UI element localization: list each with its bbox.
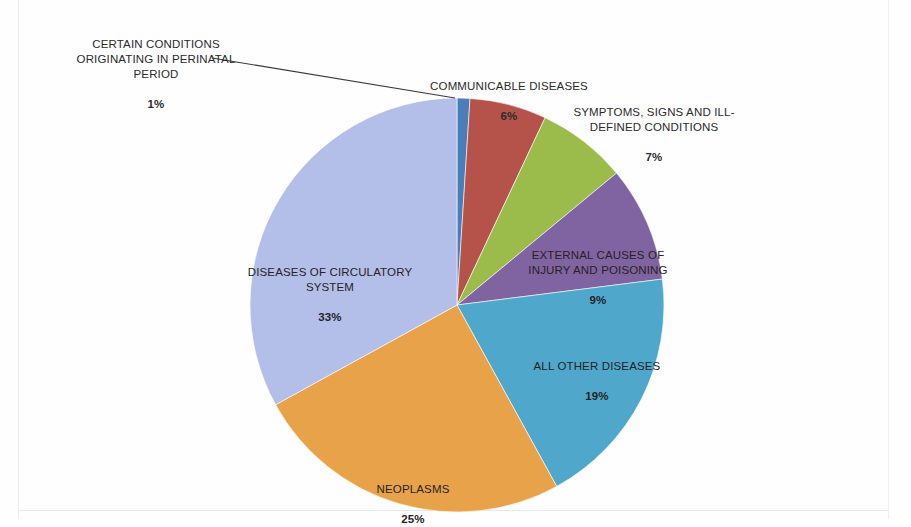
slice-label-symptoms-percent: 7% bbox=[566, 150, 742, 165]
slice-label-perinatal-percent: 1% bbox=[46, 97, 266, 112]
slice-label-all-other-diseases: ALL OTHER DISEASES 19% bbox=[512, 344, 682, 419]
slice-label-external: EXTERNAL CAUSES OF INJURY AND POISONING … bbox=[518, 233, 678, 323]
slice-label-neoplasms-name: NEOPLASMS bbox=[338, 482, 488, 497]
slice-label-symptoms: SYMPTOMS, SIGNS AND ILL- DEFINED CONDITI… bbox=[566, 90, 742, 180]
slice-label-perinatal: CERTAIN CONDITIONS ORIGINATING IN PERINA… bbox=[46, 22, 266, 127]
slice-label-circulatory-percent: 33% bbox=[244, 310, 416, 325]
slice-label-circulatory: DISEASES OF CIRCULATORY SYSTEM 33% bbox=[244, 250, 416, 340]
slice-label-external-percent: 9% bbox=[518, 293, 678, 308]
slice-label-external-name: EXTERNAL CAUSES OF INJURY AND POISONING bbox=[518, 248, 678, 278]
slice-label-circulatory-name: DISEASES OF CIRCULATORY SYSTEM bbox=[244, 265, 416, 295]
slice-label-all-other-diseases-name: ALL OTHER DISEASES bbox=[512, 359, 682, 374]
slice-label-symptoms-name: SYMPTOMS, SIGNS AND ILL- DEFINED CONDITI… bbox=[566, 105, 742, 135]
slice-label-neoplasms: NEOPLASMS 25% bbox=[338, 467, 488, 527]
slice-label-all-other-diseases-percent: 19% bbox=[512, 389, 682, 404]
slice-label-perinatal-name: CERTAIN CONDITIONS ORIGINATING IN PERINA… bbox=[46, 37, 266, 82]
slice-label-neoplasms-percent: 25% bbox=[338, 512, 488, 527]
